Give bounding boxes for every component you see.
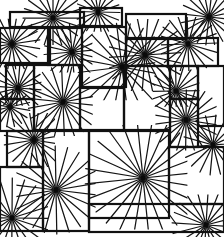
starburst-hub (204, 223, 209, 228)
starburst-hub (10, 42, 15, 47)
starburst-hub (51, 16, 56, 21)
starburst-hub (61, 100, 66, 105)
starburst-hub (10, 216, 15, 221)
starburst-hub (8, 105, 13, 110)
starburst-hub (54, 188, 59, 193)
starburst-hub (120, 65, 125, 70)
starburst-hub (143, 53, 148, 58)
starburst-hub (70, 50, 75, 55)
starburst-hub (32, 138, 37, 143)
starburst-hub (141, 176, 146, 181)
starburst-hub (211, 143, 216, 148)
starburst-pattern-canvas (0, 0, 224, 237)
starburst-hub (184, 118, 189, 123)
starburst-hub (174, 89, 179, 94)
starburst-hub (96, 10, 101, 15)
starburst-hub (186, 42, 191, 47)
starburst-hub (16, 86, 21, 91)
starburst-hub (207, 15, 212, 20)
